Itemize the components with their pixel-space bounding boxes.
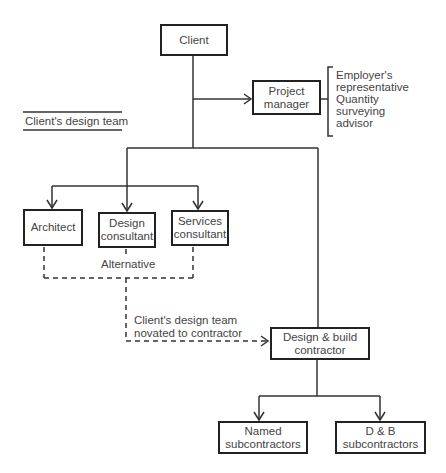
design-consultant-line2: consultant [101,230,153,243]
pm-roles-list: Employer's representative Quantity surve… [336,69,409,129]
pm-role: Quantity [336,93,409,105]
named-subs-line2: subcontractors [225,438,300,451]
pm-role: representative [336,81,409,93]
services-consultant-line1: Services [178,215,222,228]
services-consultant-line2: consultant [174,228,226,241]
design-consultant-node: Design consultant [98,212,156,248]
db-contractor-line2: contractor [294,344,345,357]
db-subs-line2: subcontractors [343,438,418,451]
services-consultant-node: Services consultant [171,210,229,246]
client-label: Client [179,34,208,47]
db-subcontractors-node: D & B subcontractors [335,421,426,454]
pm-role: Employer's [336,69,409,81]
project-manager-label-line1: Project [269,85,305,98]
named-subcontractors-node: Named subcontractors [218,421,308,454]
pm-role: surveying [336,105,409,117]
named-subs-line1: Named [244,425,281,438]
alternative-label: Alternative [101,258,155,271]
pm-role: advisor [336,117,409,129]
novation-label: Client's design team novated to contract… [134,314,242,339]
project-manager-label-line2: manager [264,98,309,111]
client-node: Client [160,24,228,56]
architect-node: Architect [23,209,83,246]
architect-label: Architect [31,221,76,234]
novation-label-line1: Client's design team [134,314,242,327]
design-build-contractor-node: Design & build contractor [270,327,370,360]
legend-label: Client's design team [25,115,128,128]
db-subs-line1: D & B [365,425,395,438]
project-manager-node: Project manager [252,80,321,115]
novation-label-line2: novated to contractor [134,327,242,340]
db-contractor-line1: Design & build [283,331,357,344]
design-consultant-line1: Design [109,217,145,230]
